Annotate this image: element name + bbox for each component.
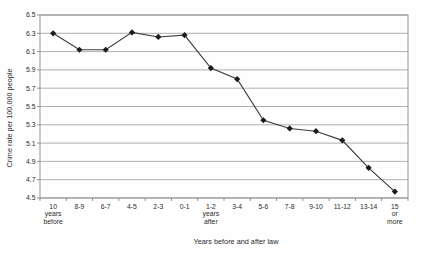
data-point-diamond [129,29,135,35]
data-point-diamond [287,125,293,131]
x-tick-label: 8-9 [75,203,85,210]
x-tick-label: 1-2yearsafter [203,203,220,225]
x-axis-title: Years before and after law [194,237,280,246]
data-series-line [53,32,395,191]
y-axis-tick-labels: 4.54.74.95.15.35.55.75.96.16.36.5 [26,11,36,201]
y-tick-label: 5.3 [26,121,36,128]
x-axis-tick-labels: 10yearsbefore8-96-74-52-30-11-2yearsafte… [44,203,403,225]
data-point-diamond [155,34,161,40]
data-point-diamond [234,76,240,82]
y-tick-label: 6.3 [26,30,36,37]
y-tick-label: 6.1 [26,48,36,55]
x-tick-label: 11-12 [334,203,351,210]
x-tick-label: 10yearsbefore [44,203,63,225]
x-tick-label: 3-4 [232,203,242,210]
y-tick-label: 5.7 [26,85,36,92]
data-point-diamond [313,128,319,134]
y-tick-label: 5.1 [26,140,36,147]
y-tick-label: 5.5 [26,103,36,110]
x-tick-label: 2-3 [153,203,163,210]
y-tick-label: 4.7 [26,176,36,183]
x-tick-label: 6-7 [101,203,111,210]
data-point-diamond [50,30,56,36]
x-tick-label: 13-14 [360,203,378,210]
series-line [53,32,395,191]
x-tick-label: 15ormore [387,203,403,225]
data-point-diamond [260,117,266,123]
x-tick-label: 5-6 [259,203,269,210]
y-tick-label: 5.9 [26,66,36,73]
y-tick-label: 4.9 [26,158,36,165]
x-tick-label: 4-5 [127,203,137,210]
y-tick-label: 4.5 [26,194,36,201]
x-tick-label: 9-10 [309,203,323,210]
data-point-markers [50,29,398,194]
x-tick-label: 0-1 [180,203,190,210]
scanned-chart-page: 4.54.74.95.15.35.55.75.96.16.36.5 10year… [0,0,421,256]
crime-rate-line-chart: 4.54.74.95.15.35.55.75.96.16.36.5 10year… [0,0,421,256]
x-tick-label: 7-8 [285,203,295,210]
y-tick-label: 6.5 [26,11,36,18]
gridlines [40,15,408,198]
y-axis-title: Crime rate per 100,000 people [5,69,14,168]
